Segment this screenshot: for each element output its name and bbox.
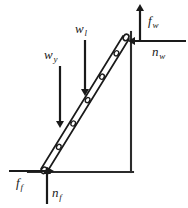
force-label-nw: nw (152, 45, 166, 61)
force-label-wl: wl (75, 22, 87, 38)
force-vectors-group (9, 10, 186, 204)
force-label-wy: wy (44, 48, 58, 64)
force-label-fw: fw (148, 14, 159, 30)
diagram-canvas (0, 0, 188, 208)
force-label-fw-sub: w (152, 20, 159, 30)
force-label-wl-base: w (75, 21, 84, 36)
force-label-nw-sub: w (159, 51, 166, 61)
ladder-free-body-diagram: fw nw wl wy ff nf (0, 0, 188, 208)
force-label-wl-sub: l (84, 28, 87, 38)
force-label-nf-sub: f (59, 192, 62, 202)
force-label-ff-sub: f (20, 182, 23, 192)
force-label-nf-base: n (52, 185, 59, 200)
force-label-ff: ff (16, 176, 23, 192)
ladder-rungs (56, 50, 120, 150)
force-label-nf: nf (52, 186, 62, 202)
force-label-wy-base: w (44, 47, 53, 62)
force-label-wy-sub: y (53, 54, 58, 64)
force-label-nw-base: n (152, 44, 159, 59)
